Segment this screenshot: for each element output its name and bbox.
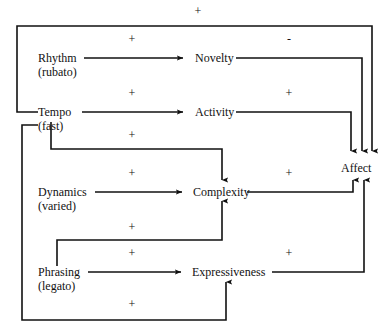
node-novelty: Novelty <box>195 51 234 65</box>
node-tempo: Tempo (fast) <box>38 105 71 133</box>
node-phrasing: Phrasing (legato) <box>38 265 80 293</box>
sign-rhythm-novelty: + <box>127 32 137 47</box>
sign-expressiveness-affect: + <box>284 246 294 261</box>
sign-tempo-activity: + <box>127 86 137 101</box>
node-complexity: Complexity <box>193 185 250 199</box>
node-novelty-name: Novelty <box>195 51 234 65</box>
node-tempo-name: Tempo <box>38 105 71 119</box>
node-rhythm-qualifier: (rubato) <box>38 65 77 79</box>
node-complexity-name: Complexity <box>193 185 250 199</box>
sign-activity-affect: + <box>284 86 294 101</box>
sign-phrasing-complexity: + <box>127 220 137 235</box>
node-expressiveness: Expressiveness <box>192 265 265 279</box>
sign-tempo-expressiveness: + <box>127 297 137 312</box>
node-tempo-qualifier: (fast) <box>38 119 71 133</box>
sign-dynamics-complexity: + <box>127 166 137 181</box>
node-dynamics: Dynamics (varied) <box>38 185 87 213</box>
sign-complexity-affect: + <box>284 166 294 181</box>
edge-activity-affect <box>236 112 351 151</box>
node-phrasing-name: Phrasing <box>38 265 80 279</box>
node-rhythm-name: Rhythm <box>38 51 77 65</box>
sign-tempo-complexity: + <box>127 128 137 143</box>
causal-diagram: Rhythm (rubato) Tempo (fast) Dynamics (v… <box>0 0 387 334</box>
node-affect: Affect <box>341 161 371 175</box>
node-affect-name: Affect <box>341 161 371 175</box>
node-expressiveness-name: Expressiveness <box>192 265 265 279</box>
node-phrasing-qualifier: (legato) <box>38 279 80 293</box>
sign-novelty-affect: - <box>284 32 294 47</box>
edge-novelty-affect <box>236 58 362 151</box>
sign-rhythm-affect-top: + <box>193 4 203 19</box>
node-activity-name: Activity <box>195 105 234 119</box>
node-activity: Activity <box>195 105 234 119</box>
node-dynamics-name: Dynamics <box>38 185 87 199</box>
edge-complexity-affect <box>247 180 353 192</box>
node-rhythm: Rhythm (rubato) <box>38 51 77 79</box>
sign-phrasing-expressiveness: + <box>127 246 137 261</box>
node-dynamics-qualifier: (varied) <box>38 199 87 213</box>
